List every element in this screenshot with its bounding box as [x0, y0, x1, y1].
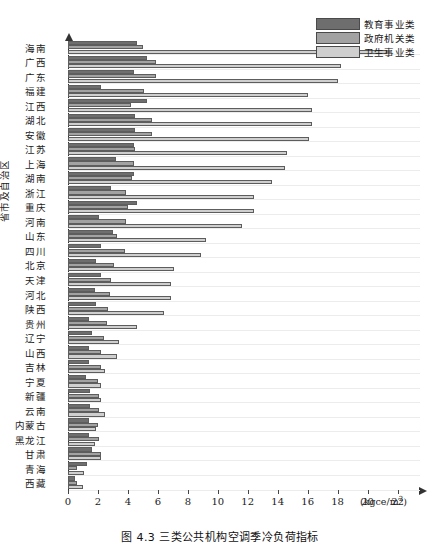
category-label: 西藏 [25, 476, 46, 490]
legend-label-edu: 教育事业类 [364, 17, 415, 31]
legend-label-med: 卫生事业类 [364, 45, 415, 59]
legend-swatch-med [316, 46, 360, 58]
category-label: 上海 [25, 157, 46, 171]
bar-med [68, 427, 96, 431]
bar-med [68, 137, 309, 141]
bar-med [68, 224, 242, 228]
bar-med [68, 442, 95, 446]
figure-caption: 图 4.3 三类公共机构空调季冷负荷指标 [0, 528, 440, 544]
bar-med [68, 93, 308, 97]
y-axis-title: 省市及自治区 [0, 102, 11, 222]
bar-group-24: 新疆 [68, 388, 420, 403]
bar-group-11: 重庆 [68, 200, 420, 215]
bar-med [68, 180, 272, 184]
legend-swatch-edu [316, 18, 360, 30]
category-label: 湖南 [25, 171, 46, 185]
category-label: 黑龙江 [15, 433, 46, 447]
category-label: 江西 [25, 99, 46, 113]
figure-container: 教育事业类政府机关类卫生事业类 0246810121416182022 海南广西… [0, 0, 440, 559]
bar-med [68, 456, 101, 460]
bar-med [68, 79, 338, 83]
category-label: 贵州 [25, 317, 46, 331]
category-label: 浙江 [25, 186, 46, 200]
bar-med [68, 122, 312, 126]
category-label: 青海 [25, 462, 46, 476]
bar-group-5: 湖北 [68, 113, 420, 128]
category-label: 海南 [25, 41, 46, 55]
category-label: 山西 [25, 346, 46, 360]
bar-group-18: 陕西 [68, 301, 420, 316]
x-tick-label-18: 18 [331, 496, 344, 507]
category-label: 广东 [25, 70, 46, 84]
category-label: 湖北 [25, 113, 46, 127]
category-label: 安徽 [25, 128, 46, 142]
category-label: 陕西 [25, 302, 46, 316]
bar-med [68, 267, 174, 271]
bar-group-22: 吉林 [68, 359, 420, 374]
x-tick-label-16: 16 [301, 496, 314, 507]
bar-group-8: 上海 [68, 156, 420, 171]
bar-group-19: 贵州 [68, 316, 420, 331]
category-label: 宁夏 [25, 375, 46, 389]
bar-group-26: 内蒙古 [68, 417, 420, 432]
bar-group-20: 辽宁 [68, 330, 420, 345]
category-label: 福建 [25, 84, 46, 98]
x-tick-10 [218, 490, 219, 494]
x-tick-16 [308, 490, 309, 494]
category-label: 广西 [25, 55, 46, 69]
x-tick-12 [248, 490, 249, 494]
category-label: 吉林 [25, 360, 46, 374]
x-tick-18 [338, 490, 339, 494]
bar-med [68, 195, 254, 199]
bar-group-4: 江西 [68, 98, 420, 113]
bar-med [68, 296, 171, 300]
bar-med [68, 485, 83, 489]
bar-group-10: 浙江 [68, 185, 420, 200]
bar-med [68, 354, 117, 358]
bar-med [68, 398, 101, 402]
bar-group-29: 青海 [68, 461, 420, 476]
bar-group-9: 湖南 [68, 171, 420, 186]
bar-group-27: 黑龙江 [68, 432, 420, 447]
legend-item-edu: 教育事业类 [316, 17, 415, 30]
x-tick-label-4: 4 [125, 496, 131, 507]
category-label: 河北 [25, 288, 46, 302]
bar-group-28: 甘肃 [68, 446, 420, 461]
x-tick-6 [158, 490, 159, 494]
x-tick-14 [278, 490, 279, 494]
category-label: 江苏 [25, 142, 46, 156]
bar-med [68, 64, 341, 68]
bar-group-6: 安徽 [68, 127, 420, 142]
category-label: 辽宁 [25, 331, 46, 345]
bar-group-15: 北京 [68, 258, 420, 273]
legend-swatch-gov [316, 32, 360, 44]
category-label: 天津 [25, 273, 46, 287]
category-label: 云南 [25, 404, 46, 418]
bar-group-21: 山西 [68, 345, 420, 360]
category-label: 甘肃 [25, 447, 46, 461]
bar-med [68, 151, 287, 155]
bar-group-13: 山东 [68, 229, 420, 244]
x-tick-label-2: 2 [95, 496, 101, 507]
category-label: 重庆 [25, 200, 46, 214]
bar-med [68, 238, 206, 242]
category-label: 河南 [25, 215, 46, 229]
x-tick-label-14: 14 [271, 496, 284, 507]
legend-label-gov: 政府机关类 [364, 31, 415, 45]
bar-group-2: 广东 [68, 69, 420, 84]
x-axis-arrow [419, 487, 427, 495]
bar-med [68, 311, 164, 315]
bar-group-7: 江苏 [68, 142, 420, 157]
bar-med [68, 471, 84, 475]
plot-area: 0246810121416182022 海南广西广东福建江西湖北安徽江苏上海湖南… [68, 40, 420, 490]
x-axis-unit-label: (kgce/m2) [360, 495, 407, 507]
chart-legend: 教育事业类政府机关类卫生事业类 [316, 17, 415, 58]
legend-item-gov: 政府机关类 [316, 31, 415, 44]
category-label: 新疆 [25, 389, 46, 403]
x-tick-label-8: 8 [185, 496, 191, 507]
category-label: 山东 [25, 229, 46, 243]
bar-med [68, 166, 285, 170]
bar-group-12: 河南 [68, 214, 420, 229]
bar-med [68, 369, 105, 373]
bar-med [68, 282, 171, 286]
